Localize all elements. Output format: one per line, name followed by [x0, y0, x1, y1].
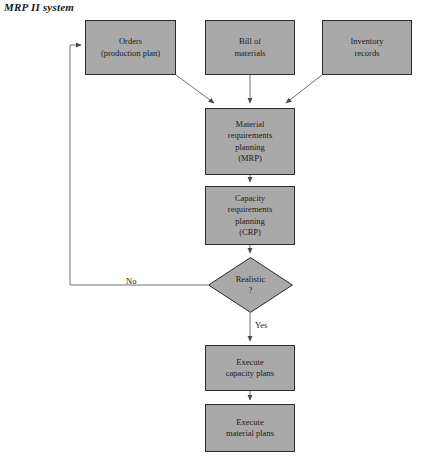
node-realistic-decision[interactable]: Realistic ?: [208, 257, 293, 313]
node-orders-label: Orders (production plan): [101, 36, 160, 58]
node-bill-of-materials[interactable]: Bill of materials: [205, 20, 295, 75]
edge-label-no: No: [126, 276, 136, 286]
node-inventory-records-label: Inventory records: [350, 36, 383, 58]
node-bill-of-materials-label: Bill of materials: [234, 36, 265, 58]
node-execute-capacity-plans-label: Execute capacity plans: [226, 357, 274, 379]
node-inventory-records[interactable]: Inventory records: [322, 20, 412, 75]
node-execute-material-plans[interactable]: Execute material plans: [205, 404, 295, 452]
node-orders[interactable]: Orders (production plan): [85, 20, 176, 75]
edge-label-yes: Yes: [255, 320, 267, 330]
node-capacity-requirements-planning[interactable]: Capacity requirements planning (CRP): [205, 186, 295, 245]
node-execute-capacity-plans[interactable]: Execute capacity plans: [205, 345, 295, 391]
node-crp-label: Capacity requirements planning (CRP): [228, 193, 272, 238]
edge-inventory-to-mrp: [286, 75, 322, 103]
diamond-shape: [208, 257, 293, 313]
edge-orders-to-mrp: [176, 75, 214, 103]
node-material-requirements-planning[interactable]: Material requirements planning (MRP): [205, 108, 295, 175]
node-execute-material-plans-label: Execute material plans: [226, 417, 274, 439]
node-mrp-label: Material requirements planning (MRP): [228, 119, 272, 164]
figure-canvas: MRP II system Orders (pr: [0, 0, 424, 476]
edge-realistic-no-feedback-to-orders: [70, 45, 208, 285]
